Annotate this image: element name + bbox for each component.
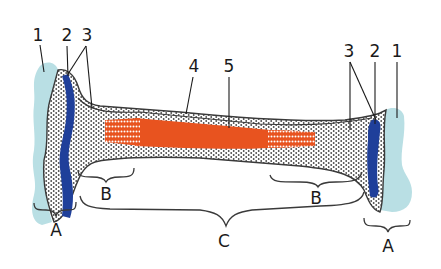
label-B-right: B	[310, 190, 322, 207]
label-2-right: 2	[370, 43, 381, 60]
label-3-right: 3	[344, 43, 355, 60]
label-5: 5	[224, 58, 235, 75]
label-A-right: A	[382, 238, 394, 255]
brace-B-left	[78, 168, 134, 182]
label-A-left: A	[50, 222, 62, 239]
bone-diagram: 1 2 3 4 5 3 2 1 A B C B A	[0, 0, 441, 269]
label-4: 4	[189, 58, 200, 75]
label-B-left: B	[100, 186, 112, 203]
label-1-right: 1	[392, 43, 403, 60]
label-1-left: 1	[33, 27, 44, 44]
right-marrow-transition	[268, 130, 315, 148]
label-2-left: 2	[62, 27, 73, 44]
label-C: C	[218, 233, 230, 250]
left-marrow-transition	[105, 118, 140, 146]
label-3-left: 3	[82, 27, 93, 44]
brace-A-right	[364, 218, 410, 232]
